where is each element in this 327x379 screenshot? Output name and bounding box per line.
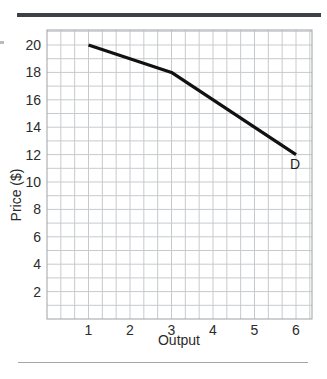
y-tick-label: 4 <box>0 256 41 272</box>
y-tick-label: 16 <box>0 92 41 108</box>
x-tick-label: 1 <box>77 322 101 338</box>
figure: 2468101214161820 123456 Price ($) Output… <box>0 0 327 379</box>
y-tick-label: 18 <box>0 64 41 80</box>
y-tick-label: 2 <box>0 284 41 300</box>
bottom-rule <box>18 362 308 363</box>
plot-background <box>47 30 312 319</box>
y-tick-label: 20 <box>0 37 41 53</box>
x-tick-label: 5 <box>243 322 267 338</box>
x-tick-label: 6 <box>284 322 308 338</box>
demand-curve-label: D <box>285 156 305 172</box>
y-tick-label: 14 <box>0 119 41 135</box>
x-axis-title: Output <box>139 332 219 348</box>
y-axis-title: Price ($) <box>8 155 24 235</box>
